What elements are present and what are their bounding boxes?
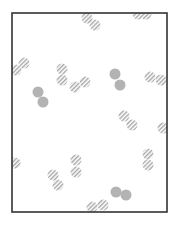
hatched-particle [119, 111, 130, 122]
solid-particle [121, 190, 132, 201]
hatched-particle [48, 170, 59, 181]
hatched-particle [141, 9, 152, 20]
hatched-particle [71, 155, 82, 166]
hatched-particle [57, 75, 68, 86]
container-frame [12, 13, 167, 212]
solid-particle [38, 97, 49, 108]
hatched-particle [57, 64, 68, 75]
solid-particle [33, 87, 44, 98]
hatched-particle [19, 58, 30, 69]
hatched-particle [87, 202, 98, 213]
hatched-particle [143, 149, 154, 160]
hatched-particle [156, 75, 167, 86]
hatched-particle [98, 200, 109, 211]
hatched-particle [10, 158, 21, 169]
hatched-particle [70, 82, 81, 93]
hatched-particle [145, 72, 156, 83]
solid-particle [111, 187, 122, 198]
solid-particle [115, 80, 126, 91]
hatched-particle [90, 20, 101, 31]
particles-layer [10, 9, 169, 213]
solid-particle [110, 69, 121, 80]
hatched-particle [80, 77, 91, 88]
hatched-particle [71, 167, 82, 178]
hatched-particle [127, 120, 138, 131]
hatched-particle [53, 180, 64, 191]
hatched-particle [143, 160, 154, 171]
particle-diagram [0, 0, 179, 226]
